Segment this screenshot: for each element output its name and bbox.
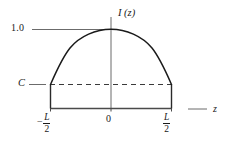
- right-tick-numerator: L: [163, 113, 170, 123]
- right-tick-denominator: 2: [163, 125, 170, 135]
- right-tick-fraction: L 2: [163, 113, 170, 134]
- y-axis-label: I (z): [118, 8, 135, 19]
- intensity-profile-figure: 1.0 C I (z) z 0 − L 2 L 2: [0, 0, 231, 142]
- figure-canvas: [0, 0, 231, 142]
- left-tick-label: − L 2: [37, 113, 50, 134]
- left-tick-numerator: L: [43, 113, 50, 123]
- x-axis-label: z: [213, 104, 217, 114]
- peak-value-label: 1.0: [11, 23, 24, 33]
- left-tick-fraction: L 2: [43, 113, 50, 134]
- left-tick-minus-sign: −: [37, 116, 43, 127]
- origin-tick-label: 0: [106, 114, 111, 124]
- left-tick-denominator: 2: [43, 125, 50, 135]
- right-tick-label: L 2: [163, 113, 170, 134]
- c-level-label: C: [18, 78, 25, 89]
